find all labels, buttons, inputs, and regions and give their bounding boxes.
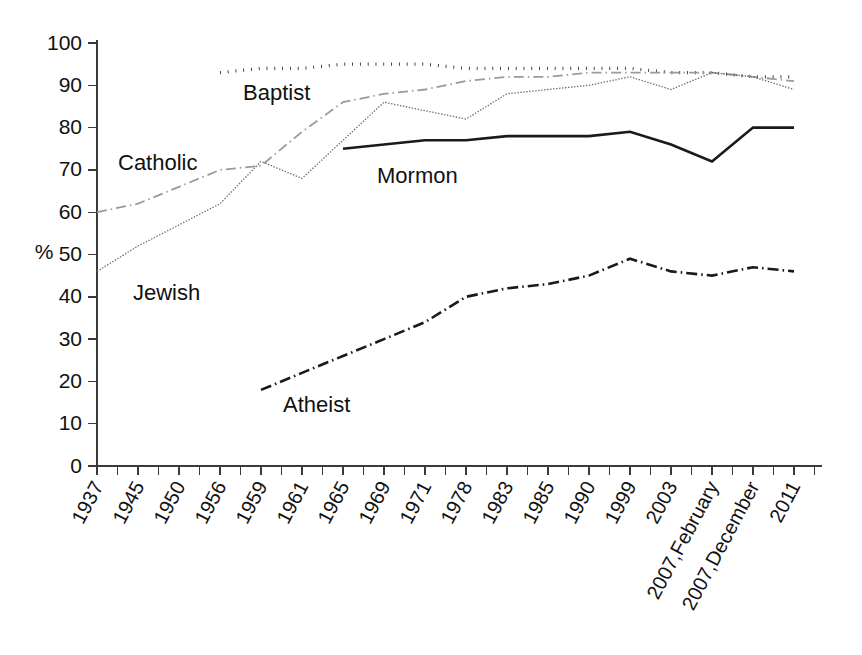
x-tick-label: 1961 xyxy=(272,478,312,528)
x-tick-label: 1971 xyxy=(395,478,435,528)
x-tick-label: 1959 xyxy=(231,478,271,528)
y-tick-label: 0 xyxy=(70,454,82,477)
series-line-catholic xyxy=(97,73,794,213)
chart-canvas: 0102030405060708090100 19371945195019561… xyxy=(0,0,862,655)
y-tick-label: 70 xyxy=(59,157,82,180)
y-tick-label: 10 xyxy=(59,411,82,434)
series-line-baptist xyxy=(220,64,794,77)
x-tick-label: 2003 xyxy=(641,478,681,528)
y-axis: 0102030405060708090100 xyxy=(47,31,97,477)
y-tick-label: 80 xyxy=(59,115,82,138)
series-label-atheist: Atheist xyxy=(283,392,350,417)
y-tick-label: 30 xyxy=(59,327,82,350)
y-tick-label: 40 xyxy=(59,284,82,307)
x-tick-label: 1937 xyxy=(67,478,107,528)
x-tick-label: 1985 xyxy=(518,478,558,528)
series-labels: BaptistCatholicJewishMormonAtheist xyxy=(118,80,458,417)
x-tick-label: 1945 xyxy=(108,478,148,528)
series-label-catholic: Catholic xyxy=(118,150,197,175)
x-tick-label: 1983 xyxy=(477,478,517,528)
y-tick-label: 90 xyxy=(59,73,82,96)
series-line-atheist xyxy=(261,259,794,390)
y-tick-label: 60 xyxy=(59,200,82,223)
x-tick-label: 1950 xyxy=(149,478,189,528)
y-tick-label: 50 xyxy=(59,242,82,265)
x-tick-label: 2011 xyxy=(765,478,805,526)
y-tick-label: 20 xyxy=(59,369,82,392)
series-label-jewish: Jewish xyxy=(133,280,200,305)
series-line-mormon xyxy=(343,128,794,162)
x-axis: 1937194519501956195919611965196919711978… xyxy=(67,466,822,614)
line-chart: 0102030405060708090100 19371945195019561… xyxy=(0,0,862,655)
x-tick-label: 1965 xyxy=(313,478,353,528)
x-tick-label: 1956 xyxy=(190,478,230,528)
x-tick-label: 1990 xyxy=(559,478,599,528)
series-label-mormon: Mormon xyxy=(377,163,458,188)
y-tick-label: 100 xyxy=(47,31,82,54)
x-tick-label: 1978 xyxy=(436,478,476,528)
x-tick-label: 1999 xyxy=(600,478,640,528)
series-lines xyxy=(97,64,794,390)
y-axis-title: % xyxy=(35,240,54,263)
x-tick-label: 1969 xyxy=(354,478,394,528)
series-label-baptist: Baptist xyxy=(243,80,310,105)
